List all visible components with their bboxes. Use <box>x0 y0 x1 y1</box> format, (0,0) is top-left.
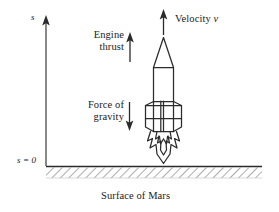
velocity-arrow <box>160 9 168 35</box>
s-axis <box>42 15 50 166</box>
engine-thrust-label-line1: Engine <box>66 29 124 41</box>
velocity-label: Velocity v <box>175 13 218 25</box>
s-axis-label: s <box>31 12 35 22</box>
gravity-arrow <box>126 102 134 131</box>
engine-thrust-label-line2: thrust <box>66 41 124 53</box>
force-of-gravity-label-line1: Force of <box>60 99 124 111</box>
surface-hatching <box>46 168 262 179</box>
s-zero-label: s = 0 <box>17 155 36 165</box>
rocket-mars-diagram: s s = 0 Engine thrust Force of gravity V… <box>0 0 279 212</box>
rocket <box>146 38 182 164</box>
rocket-exhaust-flame-outer <box>148 132 180 164</box>
engine-thrust-label: Engine thrust <box>66 29 124 53</box>
diagram-canvas <box>0 0 279 212</box>
engine-thrust-arrow <box>126 32 134 62</box>
force-of-gravity-label-line2: gravity <box>60 111 124 123</box>
figure-caption: Surface of Mars <box>101 190 170 202</box>
velocity-label-text: Velocity <box>175 13 214 24</box>
rocket-nose-cone <box>154 38 174 68</box>
velocity-symbol: v <box>214 13 219 24</box>
mars-surface <box>46 167 262 179</box>
force-of-gravity-label: Force of gravity <box>60 99 124 123</box>
